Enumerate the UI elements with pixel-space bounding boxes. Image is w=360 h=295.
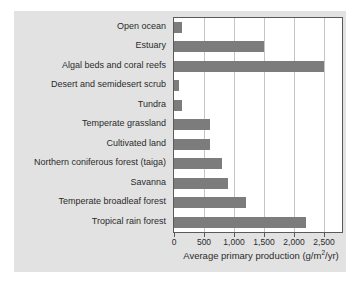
- bar-row: [174, 174, 342, 194]
- bar: [174, 41, 264, 52]
- y-axis-label: Northern coniferous forest (taiga): [34, 153, 166, 173]
- y-axis-label: Algal beds and coral reefs: [62, 56, 166, 76]
- bar-row: [174, 18, 342, 38]
- bar: [174, 80, 179, 91]
- bar-row: [174, 193, 342, 213]
- bar-row: [174, 96, 342, 116]
- bar: [174, 217, 306, 228]
- x-axis-tick-label: 2,500: [313, 237, 334, 247]
- x-axis-tick-label: 2,000: [283, 237, 304, 247]
- x-axis-tick-label: 500: [197, 237, 211, 247]
- x-axis: 05001,0001,5002,0002,500: [173, 233, 343, 249]
- bar: [174, 119, 210, 130]
- y-axis-label: Tropical rain forest: [92, 212, 166, 232]
- y-axis-label: Cultivated land: [106, 134, 166, 154]
- x-axis-title: Average primary production (g/m2/yr): [173, 250, 349, 261]
- bar-row: [174, 154, 342, 174]
- bar: [174, 100, 182, 111]
- bar-row: [174, 213, 342, 233]
- bar: [174, 158, 222, 169]
- y-axis-label: Desert and semidesert scrub: [51, 75, 166, 95]
- bar-series: [174, 18, 342, 232]
- bar-row: [174, 37, 342, 57]
- x-axis-tick-label: 1,500: [253, 237, 274, 247]
- y-axis-label: Open ocean: [117, 17, 166, 37]
- bar: [174, 22, 182, 33]
- x-axis-tick-label: 0: [172, 237, 177, 247]
- plot-area: [173, 17, 343, 233]
- bar-row: [174, 135, 342, 155]
- bar: [174, 178, 228, 189]
- x-axis-title-superscript: 2: [321, 249, 325, 256]
- bar: [174, 197, 246, 208]
- y-axis-label: Savanna: [130, 173, 166, 193]
- bar: [174, 139, 210, 150]
- y-axis-category-labels: Open oceanEstuaryAlgal beds and coral re…: [14, 17, 170, 233]
- y-axis-label: Temperate grassland: [82, 114, 166, 134]
- x-axis-tick-label: 1,000: [223, 237, 244, 247]
- y-axis-label: Temperate broadleaf forest: [58, 192, 166, 212]
- y-axis-label: Estuary: [135, 36, 166, 56]
- y-axis-label: Tundra: [138, 95, 166, 115]
- figure-panel: Open oceanEstuaryAlgal beds and coral re…: [14, 11, 346, 272]
- bar-row: [174, 76, 342, 96]
- bar-row: [174, 115, 342, 135]
- bar: [174, 61, 324, 72]
- bar-row: [174, 57, 342, 77]
